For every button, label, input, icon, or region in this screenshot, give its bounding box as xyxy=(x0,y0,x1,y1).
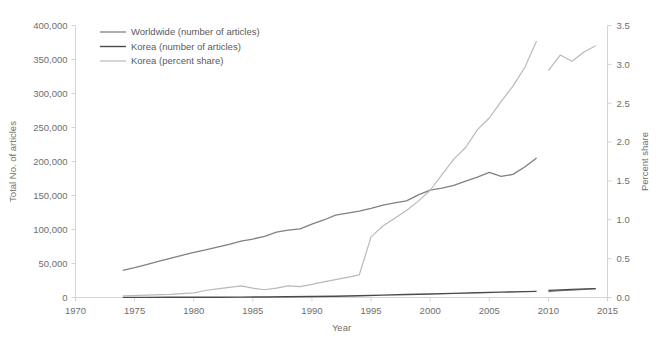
x-tick-label: 1995 xyxy=(360,305,381,316)
legend-label: Korea (number of articles) xyxy=(131,41,241,52)
chart-legend: Worldwide (number of articles)Korea (num… xyxy=(100,26,260,66)
x-tick-label: 1985 xyxy=(242,305,263,316)
legend-item: Worldwide (number of articles) xyxy=(100,26,260,37)
y-tick-label: 100,000 xyxy=(33,224,67,235)
y2-tick-label: 2.5 xyxy=(617,98,630,109)
x-tick-label: 2005 xyxy=(479,305,500,316)
legend-item: Korea (number of articles) xyxy=(100,41,241,52)
x-tick-label: 1975 xyxy=(124,305,145,316)
y2-tick-label: 2.0 xyxy=(617,136,630,147)
y-tick-label: 200,000 xyxy=(33,156,67,167)
axes-group xyxy=(72,26,612,302)
y2-tick-label: 1.0 xyxy=(617,214,630,225)
y-tick-label: 50,000 xyxy=(38,258,67,269)
x-tick-label: 2010 xyxy=(538,305,559,316)
data-series-group xyxy=(123,41,596,297)
y-tick-label: 350,000 xyxy=(33,54,67,65)
series-line-0-seg-0 xyxy=(123,158,537,270)
series-line-1-seg-0 xyxy=(123,291,537,297)
legend-label: Worldwide (number of articles) xyxy=(131,26,260,37)
y2-axis-title: Percent share xyxy=(639,132,650,191)
y2-tick-label: 3.0 xyxy=(617,59,630,70)
tick-labels-group: 050,000100,000150,000200,000250,000300,0… xyxy=(33,20,630,316)
x-tick-label: 1980 xyxy=(183,305,204,316)
x-tick-label: 2015 xyxy=(597,305,618,316)
x-tick-label: 1990 xyxy=(301,305,322,316)
y2-tick-label: 0.0 xyxy=(617,292,630,303)
legend-label: Korea (percent share) xyxy=(131,55,223,66)
x-tick-label: 2000 xyxy=(420,305,441,316)
y-axis-title: Total No. of articles xyxy=(7,121,18,202)
y-tick-label: 250,000 xyxy=(33,122,67,133)
y2-tick-label: 1.5 xyxy=(617,175,630,186)
x-tick-label: 1970 xyxy=(65,305,86,316)
chart-container: 050,000100,000150,000200,000250,000300,0… xyxy=(0,0,663,345)
y2-tick-label: 0.5 xyxy=(617,253,630,264)
y-tick-label: 0 xyxy=(62,292,67,303)
series-line-2-seg-1 xyxy=(548,46,595,71)
y-tick-label: 300,000 xyxy=(33,88,67,99)
legend-item: Korea (percent share) xyxy=(100,55,223,66)
series-line-2-seg-0 xyxy=(123,41,537,296)
axis-titles-group: Total No. of articlesPercent shareYear xyxy=(7,121,650,333)
chart-canvas: 050,000100,000150,000200,000250,000300,0… xyxy=(0,0,663,345)
y2-tick-label: 3.5 xyxy=(617,20,630,31)
x-axis-title: Year xyxy=(332,322,351,333)
y-tick-label: 150,000 xyxy=(33,190,67,201)
y-tick-label: 400,000 xyxy=(33,20,67,31)
